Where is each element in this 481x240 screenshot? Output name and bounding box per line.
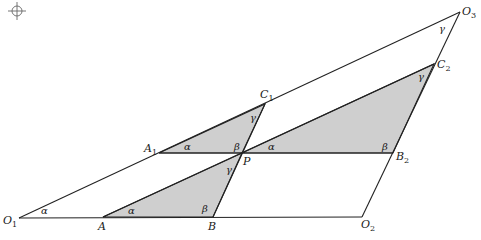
angle-label: β — [233, 141, 240, 152]
angle-label: γ — [226, 164, 232, 175]
angle-label: α — [268, 141, 275, 152]
label-b2: B2 — [395, 150, 409, 165]
angle-label: α — [184, 141, 191, 152]
label-a1: A1 — [143, 142, 157, 157]
angle-label: α — [128, 205, 135, 216]
geometry-diagram: O1 A B O2 A1 P B2 C1 C2 O3 α α β γ α β γ… — [0, 0, 481, 240]
angle-label: β — [381, 141, 388, 152]
label-c2: C2 — [437, 58, 451, 73]
edge-o1-o2 — [19, 217, 362, 218]
label-a: A — [97, 220, 106, 233]
angle-label: γ — [439, 23, 445, 34]
label-o2: O2 — [361, 218, 375, 233]
label-o1: O1 — [3, 214, 17, 229]
angle-label: γ — [250, 112, 256, 123]
registration-mark-icon — [8, 2, 26, 20]
label-b: B — [207, 220, 216, 233]
angle-label: γ — [418, 71, 424, 82]
label-c1: C1 — [260, 88, 274, 103]
label-p: P — [242, 155, 251, 168]
label-o3: O3 — [462, 5, 476, 20]
angle-label: α — [41, 205, 48, 216]
angle-label: β — [201, 203, 208, 214]
